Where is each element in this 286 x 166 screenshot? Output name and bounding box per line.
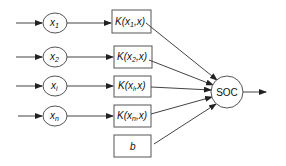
output-node-group: SOC — [211, 76, 266, 108]
kernel-label-i: K(xi,x) — [118, 80, 146, 92]
svm-diagram: x1 K(x1,x) x2 K(x2,x) xi K(xi,x) xn K(xn… — [0, 0, 286, 166]
bias-label: b — [130, 141, 136, 152]
kernel-to-soc-arrow-i — [151, 87, 211, 90]
soc-label: SOC — [216, 87, 238, 98]
row-i: xi K(xi,x) — [16, 76, 211, 97]
row-1: x1 K(x1,x) — [16, 10, 217, 80]
bias-to-soc-arrow — [154, 104, 216, 144]
row-n: xn K(xn,x) — [18, 97, 212, 127]
kernel-to-soc-arrow-1 — [146, 23, 217, 80]
kernel-to-soc-arrow-n — [151, 97, 212, 114]
kernel-to-soc-arrow-2 — [149, 60, 213, 85]
